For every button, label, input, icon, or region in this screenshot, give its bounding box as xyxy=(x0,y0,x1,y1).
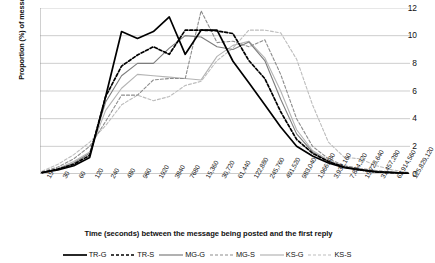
series-line-mg-g xyxy=(42,36,408,174)
y-axis-title: Proportion (%) of messages xyxy=(17,0,26,108)
series-line-mg-s xyxy=(42,11,408,173)
chart-canvas xyxy=(40,8,410,174)
series-line-tr-s xyxy=(42,30,408,173)
legend-label: MG-S xyxy=(235,250,259,259)
legend-label: TR-G xyxy=(88,250,111,259)
legend-swatch-tr-g xyxy=(62,250,88,259)
legend-item-mg-s[interactable]: MG-S xyxy=(209,250,259,259)
legend-item-tr-s[interactable]: TR-S xyxy=(110,250,158,259)
legend-item-ks-s[interactable]: KS-S xyxy=(307,250,355,259)
chart-legend: TR-GTR-SMG-GMG-SKS-GKS-S xyxy=(0,247,417,261)
legend-swatch-mg-g xyxy=(158,250,184,259)
legend-item-ks-g[interactable]: KS-G xyxy=(259,250,308,259)
gridlines xyxy=(40,8,410,146)
legend-label: KS-G xyxy=(285,250,308,259)
plot-area xyxy=(40,8,410,174)
series-line-ks-g xyxy=(42,41,408,173)
series-line-tr-g xyxy=(42,17,408,173)
legend-item-mg-g[interactable]: MG-G xyxy=(158,250,209,259)
legend-label: TR-S xyxy=(136,250,158,259)
legend-label: MG-G xyxy=(184,250,209,259)
legend-swatch-ks-g xyxy=(259,250,285,259)
legend-label: KS-S xyxy=(333,250,355,259)
legend-swatch-mg-s xyxy=(209,250,235,259)
x-axis-title: Time (seconds) between the message being… xyxy=(0,229,417,238)
series-lines xyxy=(42,11,408,174)
x-axis-tick-labels: 15306012024048096019203840768015,36030,7… xyxy=(40,176,412,234)
legend-item-tr-g[interactable]: TR-G xyxy=(62,250,111,259)
legend-swatch-ks-s xyxy=(307,250,333,259)
legend-swatch-tr-s xyxy=(110,250,136,259)
